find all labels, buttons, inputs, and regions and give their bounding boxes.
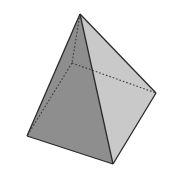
- tetrahedron-diagram: [0, 0, 172, 171]
